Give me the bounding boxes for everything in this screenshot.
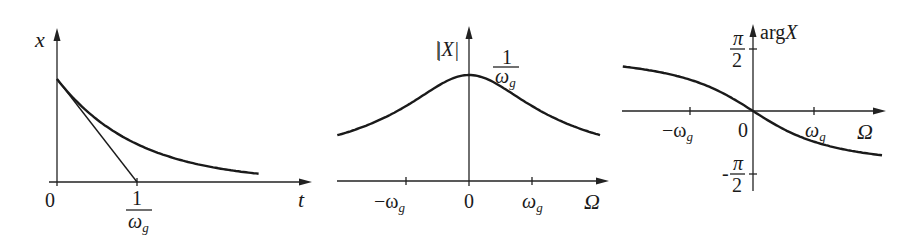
x-axis-label: t	[298, 187, 305, 212]
x-axis-arrow	[873, 108, 886, 115]
fraction-denominator: ωg	[128, 210, 149, 235]
x-axis-label: Ω	[857, 119, 873, 144]
figure-canvas: x 0 t 1 ωg | |X| 1 ωg −ωg 0 ωg Ω	[0, 0, 914, 240]
panel-phase: argX π 2 - π 2 −ωg 0 ωg Ω	[622, 21, 886, 196]
tick-label-omega-g: ωg	[805, 119, 826, 144]
x-axis-arrow	[596, 178, 609, 185]
tick-label-omega-g: ωg	[522, 190, 543, 215]
tick-label-zero: 0	[464, 190, 474, 212]
y-axis-arrow	[54, 28, 61, 41]
x-axis-arrow	[299, 179, 312, 186]
y-axis-label: argX	[760, 21, 798, 44]
y-axis-label-text: |X|	[436, 38, 459, 61]
peak-label-1-over-omega-g: 1 ωg	[493, 46, 519, 90]
fraction-numerator: π	[733, 27, 744, 49]
y-tick-label-pi-over-2: π 2	[730, 27, 745, 71]
panel-time-domain: x 0 t 1 ωg	[34, 27, 312, 235]
fraction-denominator: 2	[732, 49, 742, 71]
fraction-sign: -	[722, 162, 729, 184]
decay-curve	[57, 79, 259, 174]
y-axis-arrow	[750, 24, 757, 37]
y-axis-arrow	[466, 26, 473, 39]
tick-label-minus-omega-g: −ωg	[662, 119, 693, 144]
x-axis-label: Ω	[584, 189, 600, 214]
panel-magnitude: | |X| 1 ωg −ωg 0 ωg Ω	[337, 26, 609, 215]
origin-label: 0	[45, 189, 55, 211]
fraction-denominator: ωg	[495, 65, 516, 90]
fraction-denominator: 2	[732, 174, 742, 196]
fraction-numerator: 1	[132, 187, 142, 209]
y-tick-label-minus-pi-over-2: - π 2	[722, 152, 745, 196]
tick-label-minus-omega-g: −ωg	[374, 190, 405, 215]
tick-label-zero: 0	[738, 119, 748, 141]
fraction-numerator: π	[733, 152, 744, 174]
tangent-line	[57, 79, 137, 182]
y-axis-label: x	[34, 27, 45, 52]
tick-label-1-over-omega-g: 1 ωg	[126, 187, 152, 235]
